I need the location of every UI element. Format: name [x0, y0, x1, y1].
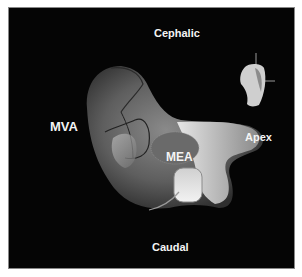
- label-caudal: Caudal: [152, 241, 189, 253]
- label-apex: Apex: [245, 131, 272, 143]
- label-mea: MEA: [166, 150, 193, 164]
- orientation-inset: [240, 53, 275, 106]
- figure-panel: Cephalic MVA Apex MEA Caudal: [8, 7, 295, 269]
- label-cephalic: Cephalic: [154, 27, 200, 39]
- label-mva: MVA: [50, 119, 78, 134]
